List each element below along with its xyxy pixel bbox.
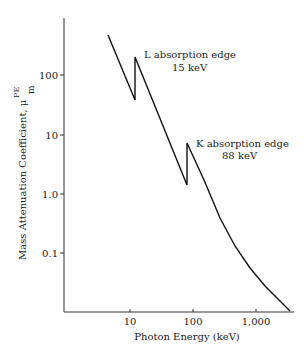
l-edge-annotation: L absorption edge 15 keV bbox=[144, 49, 236, 73]
chart: 100 10 1.0 0.1 10 100 1,000 Photon Energ… bbox=[0, 0, 304, 357]
y-tick-label: 10 bbox=[45, 130, 58, 141]
svg-text:Mass Attenuation Coefficient,: Mass Attenuation Coefficient, μ bbox=[17, 99, 28, 260]
k-edge-annotation: K absorption edge 88 keV bbox=[196, 138, 289, 161]
y-ticks: 100 10 1.0 0.1 bbox=[39, 70, 64, 259]
y-tick-label: 1.0 bbox=[42, 189, 58, 200]
x-tick-label: 10 bbox=[124, 316, 137, 327]
svg-text:PE: PE bbox=[12, 87, 21, 98]
svg-text:L absorption edge: L absorption edge bbox=[144, 49, 236, 60]
attenuation-curve bbox=[108, 35, 290, 311]
x-tick-label: 1,000 bbox=[242, 316, 271, 327]
svg-text:K absorption edge: K absorption edge bbox=[196, 138, 289, 149]
x-axis-title: Photon Energy (keV) bbox=[134, 331, 240, 342]
svg-text:m: m bbox=[26, 85, 36, 94]
y-tick-label: 0.1 bbox=[42, 248, 58, 259]
y-axis-title: Mass Attenuation Coefficient, μ m PE bbox=[12, 85, 36, 260]
svg-text:15 keV: 15 keV bbox=[172, 62, 208, 73]
x-tick-label: 100 bbox=[183, 316, 202, 327]
y-tick-label: 100 bbox=[39, 70, 58, 81]
svg-text:88 keV: 88 keV bbox=[222, 150, 258, 161]
